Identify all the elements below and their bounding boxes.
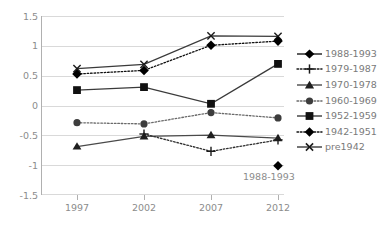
y-tick-label: -0.5 <box>4 131 38 141</box>
legend-plus-dotted-icon <box>296 62 323 76</box>
y-tick-label: 1.5 <box>4 12 38 22</box>
series-1942-1951 <box>72 36 283 79</box>
y-tick-label: -1.5 <box>4 191 38 201</box>
series-pre1942 <box>73 32 281 72</box>
line-chart: 1.5 1 0.5 0 -0.5 -1 -1.5 <box>0 0 383 231</box>
y-tick-label: 0.5 <box>4 71 38 81</box>
x-axis-ticks <box>78 195 279 201</box>
x-axis-labels: 1997 2002 2007 2012 <box>0 203 300 219</box>
x-tick-label: 1997 <box>54 203 100 213</box>
y-axis-labels: 1.5 1 0.5 0 -0.5 -1 -1.5 <box>0 0 38 231</box>
x-tick-label: 2007 <box>188 203 234 213</box>
legend-circle-dotted-icon <box>296 94 323 108</box>
legend-square-solid-icon <box>296 109 323 123</box>
data-point-annotation: 1988-1993 <box>243 172 295 182</box>
plot-canvas <box>41 16 284 195</box>
series-1988-1993 <box>273 161 283 171</box>
legend-item-1960-1969[interactable]: 1960-1969 <box>296 93 383 109</box>
legend-item-1952-1959[interactable]: 1952-1959 <box>296 108 383 124</box>
series-1970-1978 <box>73 131 283 150</box>
legend-item-1942-1951[interactable]: 1942-1951 <box>296 124 383 140</box>
legend-triangle-solid-icon <box>296 78 323 92</box>
legend-item-1979-1987[interactable]: 1979-1987 <box>296 62 383 78</box>
legend-diamond-dotted-icon <box>296 125 323 139</box>
y-tick-label: 0 <box>4 101 38 111</box>
x-tick-label: 2012 <box>255 203 301 213</box>
x-tick-label: 2002 <box>121 203 167 213</box>
legend-x-solid-icon <box>296 140 323 154</box>
legend-label: 1988-1993 <box>323 49 377 59</box>
legend-item-1970-1978[interactable]: 1970-1978 <box>296 77 383 93</box>
legend-item-pre1942[interactable]: pre1942 <box>296 140 383 156</box>
y-tick-label: -1 <box>4 161 38 171</box>
legend-item-1988-1993[interactable]: 1988-1993 <box>296 46 383 62</box>
legend-diamond-solid-icon <box>296 47 323 61</box>
legend-label: 1952-1959 <box>323 111 377 121</box>
legend-label: pre1942 <box>323 142 365 152</box>
series-1960-1969 <box>73 109 281 128</box>
legend-label: 1979-1987 <box>323 64 377 74</box>
legend-label: 1960-1969 <box>323 96 377 106</box>
plot-area <box>41 16 284 195</box>
chart-legend: 1988-1993 1979-1987 1970-1978 <box>296 46 383 155</box>
y-tick-label: 1 <box>4 41 38 51</box>
legend-label: 1970-1978 <box>323 80 377 90</box>
legend-label: 1942-1951 <box>323 127 377 137</box>
